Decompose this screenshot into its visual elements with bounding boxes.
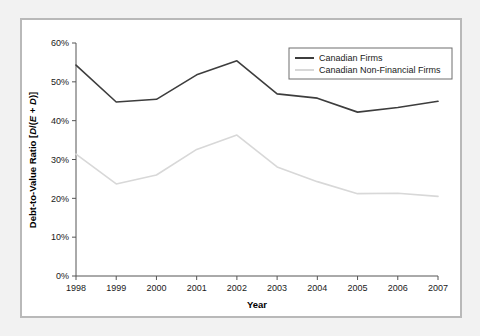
y-tick-label: 10%	[51, 232, 69, 242]
x-tick-label: 2006	[388, 283, 408, 293]
x-axis-ticks: 1998199920002001200220032004200520062007	[66, 276, 448, 293]
x-tick-label: 2001	[187, 283, 207, 293]
page-root: 0%10%20%30%40%50%60% 1998199920002001200…	[0, 0, 480, 336]
y-tick-label: 20%	[51, 194, 69, 204]
y-tick-label: 50%	[51, 77, 69, 87]
x-tick-label: 2002	[227, 283, 247, 293]
figure-panel: 0%10%20%30%40%50%60% 1998199920002001200…	[20, 18, 462, 318]
y-tick-label: 0%	[56, 271, 69, 281]
x-tick-label: 2007	[428, 283, 448, 293]
line-chart: 0%10%20%30%40%50%60% 1998199920002001200…	[22, 20, 460, 316]
x-axis-title: Year	[247, 299, 267, 310]
y-tick-label: 40%	[51, 116, 69, 126]
y-axis-title: Debt-to-Value Ratio [D/(E + D)]	[27, 92, 38, 228]
x-tick-label: 2004	[307, 283, 327, 293]
series-line-canadian-non-financial-firms	[76, 135, 438, 196]
x-tick-label: 1998	[66, 283, 86, 293]
y-axis-ticks: 0%10%20%30%40%50%60%	[51, 38, 76, 281]
series-lines	[76, 61, 438, 197]
y-tick-label: 30%	[51, 155, 69, 165]
legend: Canadian Firms Canadian Non-Financial Fi…	[289, 48, 452, 79]
x-tick-label: 2003	[267, 283, 287, 293]
legend-label-canadian-non-financial-firms: Canadian Non-Financial Firms	[319, 65, 441, 75]
legend-label-canadian-firms: Canadian Firms	[319, 53, 383, 63]
x-tick-label: 2005	[348, 283, 368, 293]
y-tick-label: 60%	[51, 38, 69, 48]
x-tick-label: 2000	[146, 283, 166, 293]
x-tick-label: 1999	[106, 283, 126, 293]
